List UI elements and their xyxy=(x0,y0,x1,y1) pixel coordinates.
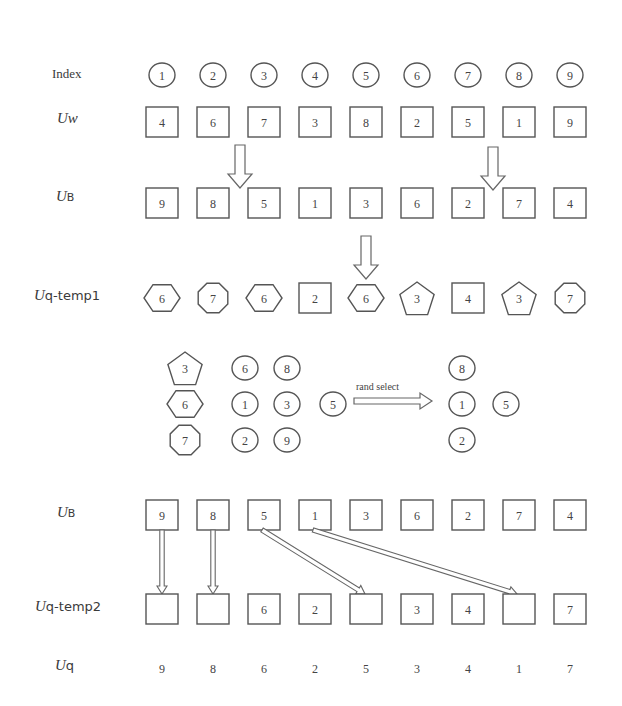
ub-to-temp2-arrows xyxy=(157,528,517,597)
uq-temp1-cell: 6 xyxy=(144,285,180,312)
candidate-item: 1 xyxy=(232,392,258,416)
ub-repeat-cell: 6 xyxy=(401,500,433,530)
uw-cell: 3 xyxy=(299,107,331,137)
shape-value: 6 xyxy=(182,398,188,412)
uq-temp2-cell: 3 xyxy=(401,594,433,624)
uq-temp1-cell: 7 xyxy=(198,283,228,313)
square-shape xyxy=(350,594,382,624)
shape-value: 3 xyxy=(414,292,420,306)
candidate-item: 8 xyxy=(274,356,300,380)
uw-cell: 2 xyxy=(401,107,433,137)
shape-value: 9 xyxy=(159,197,165,211)
shape-value: 9 xyxy=(567,116,573,130)
uw-row: 467382519 xyxy=(146,107,586,137)
down-arrow-icon xyxy=(354,236,378,279)
shape-value: 4 xyxy=(159,116,165,130)
uq-value: 3 xyxy=(414,662,420,676)
shape-value: 6 xyxy=(363,292,369,306)
uq-value: 4 xyxy=(465,662,471,676)
shape-value: 1 xyxy=(312,197,318,211)
index-circle-2: 2 xyxy=(200,63,226,87)
shape-value: 4 xyxy=(567,197,573,211)
uq-temp1-row: 676263437 xyxy=(144,282,585,315)
shape-value: 3 xyxy=(363,509,369,523)
shape-value: 6 xyxy=(414,69,420,83)
rand-select-label: rand select xyxy=(356,381,399,392)
uq-temp2-cell: 2 xyxy=(299,594,331,624)
shape-value: 5 xyxy=(363,69,369,83)
shape-value: 1 xyxy=(459,398,465,412)
shape-value: 3 xyxy=(182,362,188,376)
uq-value: 6 xyxy=(261,662,267,676)
uw-cell: 1 xyxy=(503,107,535,137)
link-arrow-icon xyxy=(261,528,365,594)
empty-slot xyxy=(146,594,178,624)
shape-value: 8 xyxy=(363,116,369,130)
shape-value: 6 xyxy=(261,603,267,617)
rand-select-arrow-icon xyxy=(354,393,432,409)
candidate-item: 5 xyxy=(320,392,346,416)
selected-item: 2 xyxy=(449,428,475,452)
shape-value: 1 xyxy=(159,69,165,83)
square-shape xyxy=(197,594,229,624)
shape-value: 2 xyxy=(312,603,318,617)
ub-cell: 6 xyxy=(401,188,433,218)
index-circle-3: 3 xyxy=(251,63,277,87)
index-circle-7: 7 xyxy=(455,63,481,87)
uw-cell: 8 xyxy=(350,107,382,137)
uq-temp2-cell: 6 xyxy=(248,594,280,624)
shape-value: 7 xyxy=(516,509,522,523)
uq-temp1-cell: 4 xyxy=(452,283,484,313)
shape-value: 1 xyxy=(312,509,318,523)
square-shape xyxy=(503,594,535,624)
shape-value: 2 xyxy=(210,69,216,83)
ub-cell: 3 xyxy=(350,188,382,218)
empty-slot xyxy=(350,594,382,624)
shape-value: 4 xyxy=(465,292,471,306)
shape-value: 5 xyxy=(261,197,267,211)
diagram-canvas: 123456789 467382519 985136274 676263437 … xyxy=(0,0,622,706)
uw-cell: 9 xyxy=(554,107,586,137)
shape-value: 4 xyxy=(465,603,471,617)
shape-value: 7 xyxy=(261,116,267,130)
uq-temp1-cell: 6 xyxy=(348,285,384,312)
down-arrow-icon xyxy=(481,147,505,190)
shape-value: 3 xyxy=(516,292,522,306)
index-circle-6: 6 xyxy=(404,63,430,87)
ub-repeat-cell: 4 xyxy=(554,500,586,530)
shape-value: 8 xyxy=(516,69,522,83)
link-arrow-icon xyxy=(312,528,517,597)
shape-value: 5 xyxy=(465,116,471,130)
shape-value: 1 xyxy=(242,398,248,412)
index-circle-8: 8 xyxy=(506,63,532,87)
uw-cell: 5 xyxy=(452,107,484,137)
shape-value: 6 xyxy=(210,116,216,130)
empty-slot xyxy=(503,594,535,624)
shape-value: 6 xyxy=(242,362,248,376)
ub-repeat-cell: 1 xyxy=(299,500,331,530)
ub-cell: 1 xyxy=(299,188,331,218)
shape-value: 2 xyxy=(242,434,248,448)
empty-slot xyxy=(197,594,229,624)
index-circle-4: 4 xyxy=(302,63,328,87)
index-circle-1: 1 xyxy=(149,63,175,87)
uq-value: 7 xyxy=(567,662,573,676)
ub-row: 985136274 xyxy=(146,188,586,218)
candidate-item: 2 xyxy=(232,428,258,452)
shape-value: 3 xyxy=(414,603,420,617)
candidate-item: 3 xyxy=(274,392,300,416)
uw-to-ub-arrows xyxy=(228,145,505,190)
shape-value: 1 xyxy=(516,116,522,130)
uw-cell: 7 xyxy=(248,107,280,137)
uq-value: 2 xyxy=(312,662,318,676)
uw-cell: 6 xyxy=(197,107,229,137)
duplicate-item: 6 xyxy=(167,391,203,418)
uw-cell: 4 xyxy=(146,107,178,137)
candidate-item: 6 xyxy=(232,356,258,380)
uq-temp2-row: 62347 xyxy=(146,594,586,624)
duplicate-item: 7 xyxy=(170,425,200,455)
shape-value: 7 xyxy=(567,292,573,306)
uq-temp1-cell: 2 xyxy=(299,283,331,313)
shape-value: 8 xyxy=(459,362,465,376)
shape-value: 7 xyxy=(567,603,573,617)
